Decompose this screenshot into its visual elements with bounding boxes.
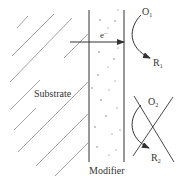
- reaction-2-arrow: [132, 105, 149, 148]
- r2-label: R2: [151, 152, 161, 164]
- electron-label: e−: [100, 30, 108, 40]
- electrode-modification-diagram: Substrate Modifier: [0, 0, 181, 181]
- o1-label: O1: [142, 6, 152, 18]
- substrate-label: Substrate: [34, 88, 72, 99]
- reaction-1-arrow: [132, 15, 150, 58]
- o2-label: O2: [148, 96, 158, 108]
- modifier-label: Modifier: [89, 165, 125, 176]
- r1-label: R1: [153, 57, 163, 69]
